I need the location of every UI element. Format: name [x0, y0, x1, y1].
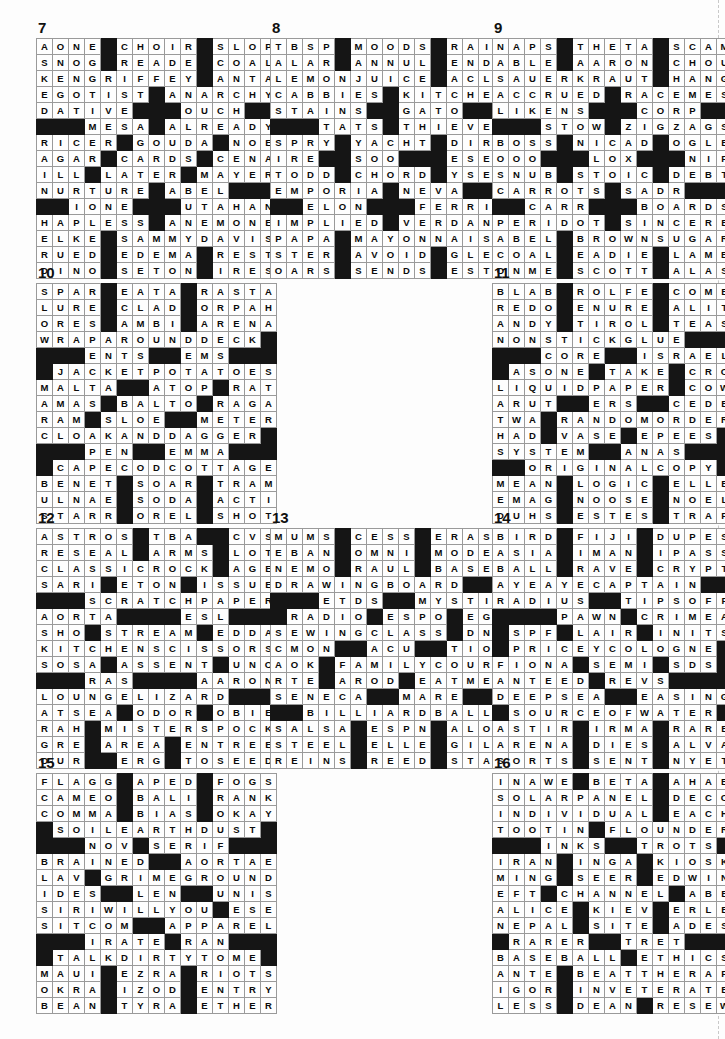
grid-cell-letter: T	[447, 673, 463, 689]
grid-cell-letter: A	[685, 545, 701, 561]
grid-cell-letter: R	[117, 870, 133, 886]
grid-cell-block	[303, 119, 319, 135]
grid-cell-letter: N	[493, 918, 509, 934]
grid-cell-letter: H	[229, 998, 245, 1014]
grid-cell-letter: M	[261, 476, 277, 492]
grid-cell-block	[605, 183, 621, 199]
grid-cell-letter: G	[245, 460, 261, 476]
grid-cell-letter: P	[669, 545, 685, 561]
grid-cell-letter: R	[197, 870, 213, 886]
grid-row: NURTUREABEL	[37, 183, 277, 199]
crossword-grid: FLAGGAPEDFOGSCAMEOBALIRANKCOMMABIASOKAYS…	[36, 773, 277, 1014]
grid-cell-letter: G	[653, 119, 669, 135]
grid-cell-letter: C	[229, 87, 245, 103]
grid-cell-block	[605, 689, 621, 705]
grid-cell-letter: D	[165, 55, 181, 71]
grid-cell-block	[621, 348, 637, 364]
grid-cell-letter: O	[383, 151, 399, 167]
grid-row: DRAWINGBOARD	[271, 577, 511, 593]
grid-cell-letter: R	[351, 673, 367, 689]
grid-cell-letter: A	[367, 231, 383, 247]
grid-cell-letter: S	[351, 103, 367, 119]
grid-cell-letter: E	[101, 460, 117, 476]
grid-cell-block	[181, 998, 197, 1014]
grid-cell-letter: A	[509, 950, 525, 966]
grid-row: NONSTICKGLUE	[493, 332, 725, 348]
grid-cell-letter: D	[197, 822, 213, 838]
grid-cell-letter: S	[181, 806, 197, 822]
grid-cell-letter: E	[53, 476, 69, 492]
grid-row: TATSTHIEVES	[271, 119, 511, 135]
grid-cell-letter: N	[541, 737, 557, 753]
grid-cell-letter: W	[319, 577, 335, 593]
grid-cell-letter: S	[271, 135, 287, 151]
grid-cell-block	[701, 183, 717, 199]
grid-cell-letter: U	[101, 183, 117, 199]
grid-cell-block	[69, 838, 85, 854]
grid-cell-letter: W	[717, 998, 725, 1014]
grid-cell-letter: H	[69, 721, 85, 737]
grid-cell-letter: S	[621, 396, 637, 412]
grid-cell-letter: S	[101, 412, 117, 428]
grid-cell-block	[573, 737, 589, 753]
grid-cell-letter: R	[229, 918, 245, 934]
grid-cell-letter: P	[319, 39, 335, 55]
grid-cell-letter: A	[133, 774, 149, 790]
grid-cell-letter: A	[181, 689, 197, 705]
grid-cell-letter: N	[589, 412, 605, 428]
grid-cell-letter: H	[493, 428, 509, 444]
grid-cell-letter: R	[245, 428, 261, 444]
grid-cell-letter: N	[133, 428, 149, 444]
grid-cell-letter: A	[367, 561, 383, 577]
grid-cell-letter: E	[669, 428, 685, 444]
grid-cell-letter: H	[37, 215, 53, 231]
grid-cell-letter: A	[69, 332, 85, 348]
grid-cell-letter: P	[303, 215, 319, 231]
grid-cell-block	[701, 577, 717, 593]
grid-cell-letter: S	[245, 247, 261, 263]
grid-cell-block	[383, 593, 399, 609]
grid-cell-letter: C	[637, 609, 653, 625]
grid-cell-block	[525, 119, 541, 135]
grid-cell-letter: E	[717, 982, 725, 998]
grid-cell-letter: O	[653, 103, 669, 119]
grid-cell-letter: U	[605, 300, 621, 316]
grid-cell-letter: L	[85, 215, 101, 231]
grid-cell-letter: N	[101, 854, 117, 870]
grid-cell-letter: A	[525, 247, 541, 263]
grid-cell-letter: T	[701, 982, 717, 998]
grid-cell-letter: M	[117, 918, 133, 934]
grid-row: STERAVOIDGLEN	[271, 247, 511, 263]
grid-cell-block	[493, 348, 509, 364]
grid-cell-letter: I	[399, 247, 415, 263]
grid-cell-block	[165, 673, 181, 689]
grid-cell-block	[69, 673, 85, 689]
grid-cell-letter: S	[525, 444, 541, 460]
grid-cell-letter: Y	[261, 982, 277, 998]
grid-cell-letter: A	[117, 428, 133, 444]
grid-cell-letter: D	[525, 593, 541, 609]
grid-cell-block	[557, 316, 573, 332]
grid-cell-letter: I	[117, 561, 133, 577]
grid-cell-letter: I	[509, 870, 525, 886]
grid-cell-block	[509, 838, 525, 854]
grid-cell-letter: N	[165, 886, 181, 902]
grid-cell-letter: Y	[229, 167, 245, 183]
grid-cell-letter: I	[605, 625, 621, 641]
grid-cell-letter: O	[509, 822, 525, 838]
grid-cell-letter: T	[525, 886, 541, 902]
grid-cell-letter: E	[101, 215, 117, 231]
grid-cell-letter: A	[447, 705, 463, 721]
grid-cell-letter: R	[149, 822, 165, 838]
grid-cell-letter: N	[541, 476, 557, 492]
grid-row: BEANTYRAETHER	[37, 998, 277, 1014]
grid-cell-letter: R	[525, 183, 541, 199]
grid-cell-letter: O	[213, 870, 229, 886]
grid-cell-letter: T	[117, 625, 133, 641]
grid-cell-letter: A	[245, 199, 261, 215]
grid-cell-letter: N	[229, 71, 245, 87]
grid-cell-block	[605, 87, 621, 103]
grid-cell-letter: I	[669, 854, 685, 870]
grid-cell-block	[509, 348, 525, 364]
grid-cell-letter: J	[605, 529, 621, 545]
